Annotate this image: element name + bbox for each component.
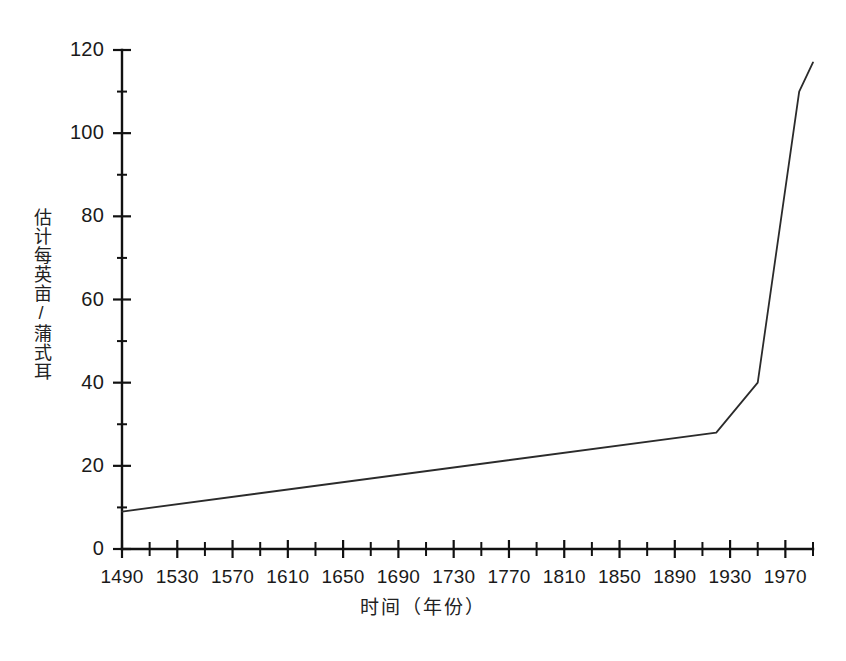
plot-canvas bbox=[0, 0, 846, 661]
y-tick-label-0: 0 bbox=[34, 538, 104, 558]
y-tick-label-100: 100 bbox=[34, 122, 104, 142]
x-tick-label-1970: 1970 bbox=[745, 567, 825, 586]
y-tick-label-120: 120 bbox=[34, 39, 104, 59]
data-line-series-0 bbox=[122, 62, 813, 511]
axes-group bbox=[122, 50, 813, 549]
y-tick-label-20: 20 bbox=[34, 455, 104, 475]
y-axis-title: 估计每英亩/蒲式耳 bbox=[26, 208, 52, 381]
chart-figure: 020406080100120 149015301570161016501690… bbox=[0, 0, 846, 661]
ticks-group bbox=[113, 50, 813, 558]
x-axis-title: 时间（年份） bbox=[0, 596, 846, 620]
